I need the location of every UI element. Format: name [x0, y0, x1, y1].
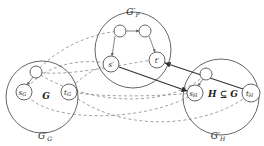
node-label: s′ — [108, 61, 114, 69]
node-p1 — [114, 25, 126, 37]
region-g-prime-p — [95, 12, 171, 88]
solid-edges — [119, 63, 243, 91]
diagram-canvas: G′PG′GGG′HH ⊆ Gs′t′sGtGsHtH — [0, 0, 264, 146]
dashed-connections — [24, 31, 251, 122]
region-label: G′H — [211, 131, 226, 142]
node-g1 — [30, 66, 42, 78]
node-p2 — [139, 25, 151, 37]
region-label: G′G — [38, 131, 52, 142]
region-label: G′P — [126, 7, 140, 18]
node-h1 — [200, 68, 212, 80]
graph-label: G — [42, 91, 50, 101]
graph-label: H ⊆ G — [207, 89, 238, 99]
node-label: t′ — [155, 57, 160, 65]
